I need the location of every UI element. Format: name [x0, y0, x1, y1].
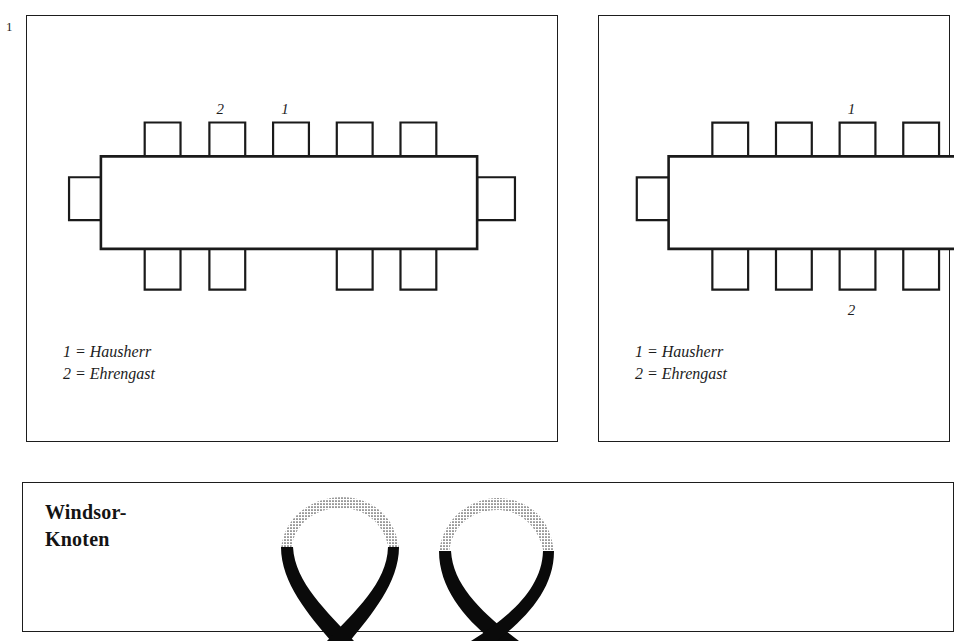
tie-step-1-illustration — [251, 491, 421, 641]
chair-right-1 — [477, 177, 515, 220]
seat-marker-ehrengast: 2 — [848, 303, 856, 319]
legend-line-ehrengast: 2 = Ehrengast — [63, 363, 155, 385]
seat-marker-hausherr: 1 — [281, 101, 288, 117]
dining-table — [669, 156, 954, 248]
legend-right: 1 = Hausherr 2 = Ehrengast — [635, 341, 727, 384]
chair-bottom-4 — [337, 245, 373, 290]
chair-bottom-1 — [712, 245, 748, 290]
collar-arc — [439, 498, 554, 554]
tie-step-2-illustration — [401, 491, 571, 641]
dining-table — [101, 156, 477, 249]
windsor-knot-title: Windsor- Knoten — [45, 499, 127, 553]
title-line-1: Windsor- — [45, 499, 127, 526]
legend-left: 1 = Hausherr 2 = Ehrengast — [63, 341, 155, 384]
seat-marker-hausherr: 1 — [848, 101, 855, 117]
legend-line-ehrengast: 2 = Ehrengast — [635, 363, 727, 385]
collar-arc — [281, 497, 399, 550]
chair-bottom-3 — [840, 245, 876, 290]
seating-plan-right-panel: 1 2 1 = Hausherr 2 = Ehrengast — [598, 15, 950, 442]
title-line-2: Knoten — [45, 526, 127, 553]
figure-number: 1 — [6, 20, 13, 33]
seating-plan-left-panel: 2 1 1 = Hausherr 2 = Ehrengast — [26, 15, 558, 442]
chair-bottom-1 — [145, 245, 181, 290]
seat-marker-ehrengast: 2 — [217, 101, 225, 117]
chair-bottom-4 — [903, 245, 939, 290]
windsor-knot-panel: Windsor- Knoten — [22, 482, 954, 632]
chair-bottom-2 — [209, 245, 245, 290]
legend-line-hausherr: 1 = Hausherr — [635, 341, 727, 363]
chair-bottom-2 — [776, 245, 812, 290]
chair-bottom-5 — [400, 245, 436, 290]
legend-line-hausherr: 1 = Hausherr — [63, 341, 155, 363]
